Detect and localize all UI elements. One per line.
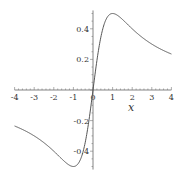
x-axis-label: x (128, 101, 135, 114)
x-tick-label: -2 (50, 93, 58, 102)
x-tick-label: -3 (30, 93, 38, 102)
chart-canvas: -4-3-2-1012340.40.2-0.2-0.4 x (0, 0, 181, 180)
y-tick-label: 0.2 (76, 55, 89, 64)
x-tick-label: -4 (11, 93, 19, 102)
x-tick-label: 4 (169, 93, 174, 102)
y-tick-label: 0.4 (76, 25, 89, 34)
x-tick-label: 3 (149, 93, 154, 102)
x-tick-label: -1 (70, 93, 78, 102)
x-tick-label: 1 (110, 93, 115, 102)
y-tick-label: -0.2 (74, 117, 89, 126)
y-tick-label: -0.4 (74, 147, 89, 156)
